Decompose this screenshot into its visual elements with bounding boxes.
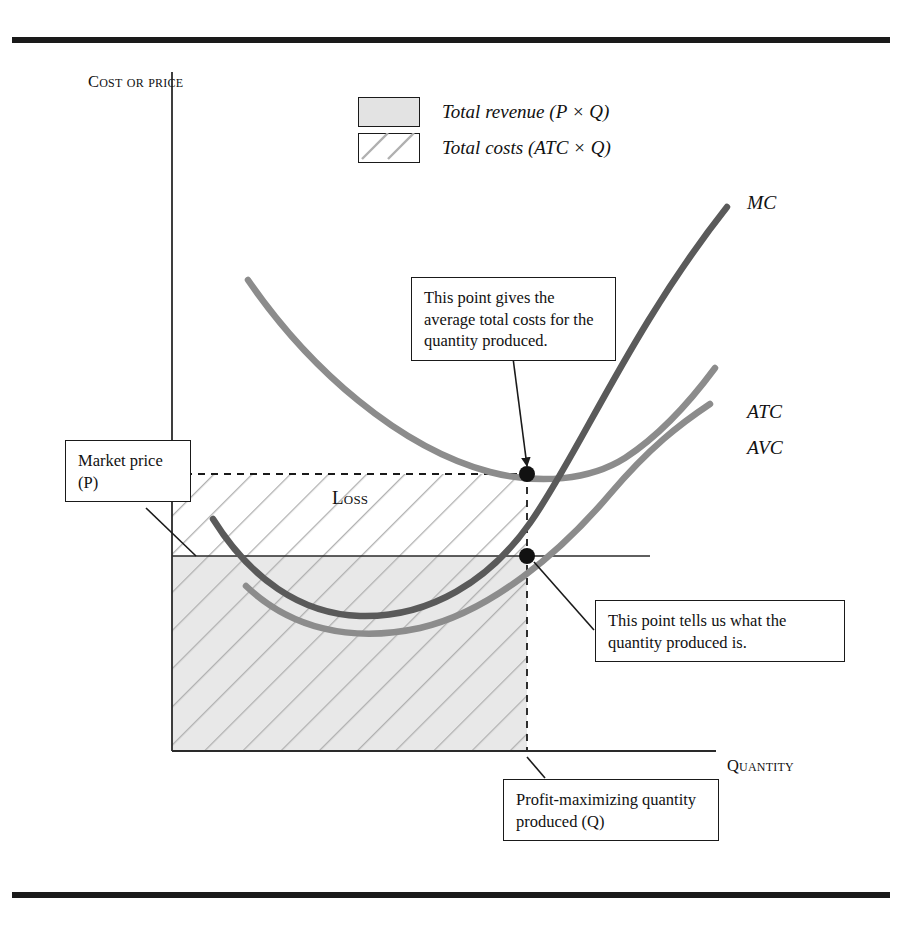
legend-item-total-revenue: Total revenue (P × Q) [358, 97, 609, 127]
avc-curve-label: AVC [747, 437, 783, 459]
legend-label-revenue: Total revenue (P × Q) [442, 101, 609, 123]
loss-region-label: Loss [332, 487, 368, 509]
legend-swatch-costs-hatch [358, 133, 418, 161]
legend-swatch-revenue [358, 97, 420, 127]
atc-curve-label: ATC [747, 401, 782, 423]
legend-label-costs: Total costs (ATC × Q) [442, 137, 611, 159]
x-axis-label: Quantity [727, 756, 794, 776]
atc-point-marker [519, 466, 535, 482]
quantity-callout-leader [534, 562, 594, 630]
callout-profit-max-quantity: Profit-maximizing quantity produced (Q) [503, 779, 719, 841]
callout-market-price: Market price (P) [65, 440, 191, 502]
y-axis-label: Cost or price [88, 72, 172, 92]
legend-item-total-costs: Total costs (ATC × Q) [358, 133, 611, 163]
legend-swatch-costs [358, 133, 420, 163]
mc-curve-label: MC [747, 192, 776, 214]
atc-callout-leader [513, 358, 527, 466]
quantity-point-marker [519, 548, 535, 564]
callout-quantity-point: This point tells us what the quantity pr… [595, 600, 845, 662]
cost-curve-diagram: Cost or price Quantity Loss MC ATC AVC T… [0, 0, 900, 931]
profit-max-callout-leader [527, 757, 545, 778]
callout-atc-point: This point gives the average total costs… [411, 277, 616, 361]
